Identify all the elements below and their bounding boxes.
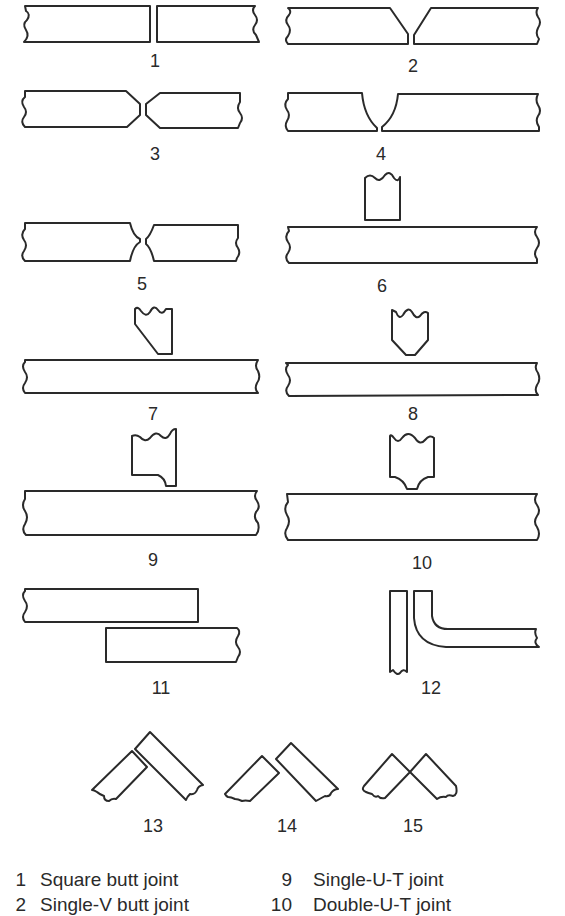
joint-6-label: 6 (377, 276, 387, 296)
joint-14-corner-open: 14 (225, 743, 338, 836)
legend-text: Double-U-T joint (313, 893, 451, 916)
joint-2-single-v-butt: 2 (286, 8, 540, 76)
joint-10-label: 10 (412, 553, 432, 573)
joint-14-label: 14 (277, 816, 297, 836)
joint-4-single-u-butt: 4 (285, 93, 540, 164)
joint-3-double-v-butt: 3 (22, 91, 242, 164)
joint-3-label: 3 (150, 144, 160, 164)
joint-11-lap: 11 (23, 589, 240, 698)
legend-number: 10 (266, 893, 292, 916)
joint-7-single-bevel-t: 7 (23, 307, 259, 424)
joint-12-label: 12 (421, 678, 441, 698)
welded-joints-diagram: 1 2 3 4 5 6 7 8 (0, 0, 565, 916)
joint-15-label: 15 (403, 816, 423, 836)
legend-text: Square butt joint (40, 868, 178, 892)
legend-number: 9 (266, 868, 292, 892)
legend-text: Single-U-T joint (313, 868, 444, 892)
legend: 1 Square butt joint 2 Single-V butt join… (0, 858, 565, 916)
legend-number: 2 (0, 893, 26, 916)
joint-9-single-u-t: 9 (23, 429, 259, 570)
joint-12-flanged: 12 (390, 591, 539, 698)
legend-number: 1 (0, 868, 26, 892)
joint-8-label: 8 (408, 404, 418, 424)
legend-text: Single-V butt joint (40, 893, 189, 916)
joint-8-double-bevel-t: 8 (286, 310, 539, 424)
joint-13-corner: 13 (92, 732, 203, 836)
joint-2-label: 2 (408, 56, 418, 76)
joint-11-label: 11 (152, 678, 171, 698)
joint-7-label: 7 (148, 404, 158, 424)
joint-9-label: 9 (148, 550, 158, 570)
joint-5-double-u-butt: 5 (22, 223, 239, 294)
joint-15-corner-flush: 15 (363, 754, 457, 836)
joint-10-double-u-t: 10 (285, 434, 539, 573)
joint-4-label: 4 (376, 144, 386, 164)
joint-1-label: 1 (150, 51, 160, 71)
joint-1-square-butt: 1 (24, 6, 259, 71)
joint-6-square-t: 6 (286, 173, 539, 296)
joint-13-label: 13 (143, 816, 163, 836)
joint-5-label: 5 (137, 274, 147, 294)
